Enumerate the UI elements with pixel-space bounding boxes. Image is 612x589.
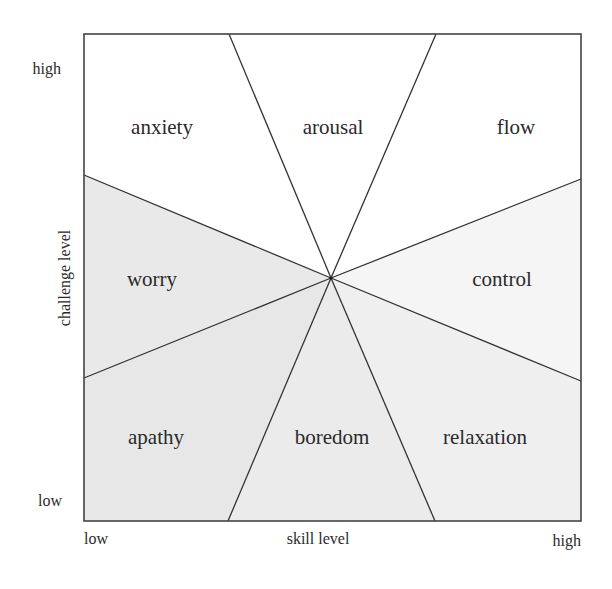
region-label-worry: worry	[127, 267, 178, 291]
region-label-control: control	[472, 267, 532, 291]
region-label-relaxation: relaxation	[443, 425, 527, 449]
region-label-anxiety: anxiety	[131, 115, 193, 139]
y-axis-low-label: low	[38, 492, 62, 509]
x-axis-title: skill level	[287, 530, 350, 547]
x-axis-low-label: low	[84, 530, 108, 547]
y-axis: high low challenge level	[33, 60, 74, 509]
region-label-boredom: boredom	[295, 425, 370, 449]
flow-diagram: anxiety arousal flow control relaxation …	[0, 0, 612, 589]
region-label-apathy: apathy	[128, 425, 184, 449]
x-axis-high-label: high	[553, 532, 581, 550]
region-label-arousal: arousal	[303, 115, 364, 139]
center-point	[329, 276, 332, 279]
x-axis: low skill level high	[84, 530, 581, 550]
region-label-flow: flow	[497, 115, 536, 139]
y-axis-high-label: high	[33, 60, 61, 78]
y-axis-title: challenge level	[56, 229, 74, 326]
